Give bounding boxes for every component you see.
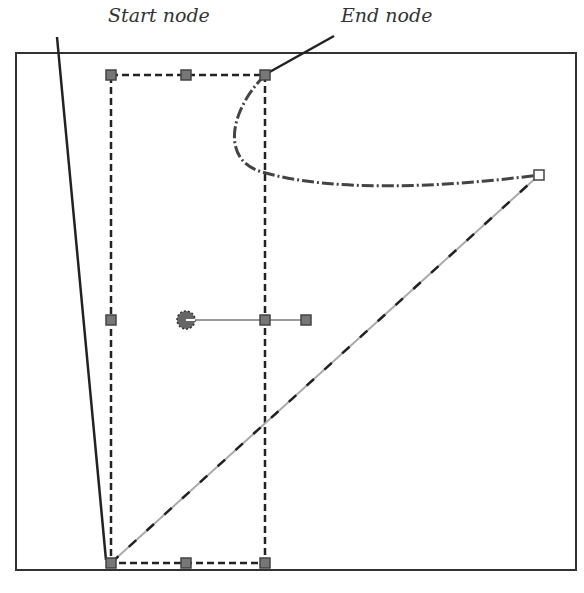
handle-middle-right[interactable] (260, 315, 270, 325)
corner-node-handle[interactable] (534, 170, 544, 180)
end-node-leader (266, 36, 334, 74)
rotation-handle[interactable] (301, 315, 311, 325)
path-segment-curve[interactable] (234, 75, 539, 186)
handle-top-middle[interactable] (181, 70, 191, 80)
path-segment-dash (111, 175, 539, 563)
handle-bottom-left-start-node[interactable] (106, 558, 116, 568)
start-node-leader (57, 37, 106, 560)
handle-top-right-end-node[interactable] (260, 70, 270, 80)
handle-bottom-middle[interactable] (181, 558, 191, 568)
handle-middle-left[interactable] (106, 315, 116, 325)
diagram-canvas (0, 0, 584, 593)
handle-top-left[interactable] (106, 70, 116, 80)
handle-bottom-right[interactable] (260, 558, 270, 568)
